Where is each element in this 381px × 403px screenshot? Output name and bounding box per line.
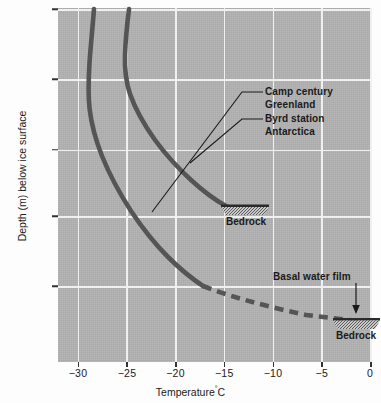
plot-area: Camp century Greenland Byrd station Anta… xyxy=(58,8,370,362)
annotation-byrd-station-line2: Antarctica xyxy=(265,126,325,139)
x-tick-label--20: −20 xyxy=(166,367,185,379)
x-axis-title-unit: C xyxy=(218,386,226,398)
y-tick-mark-2000 xyxy=(52,285,58,287)
curves-layer xyxy=(58,8,370,362)
x-tick-label--10: −10 xyxy=(264,367,283,379)
annotation-basal-water-film: Basal water film xyxy=(273,271,351,284)
x-tick-label--5: −5 xyxy=(316,367,329,379)
bedrock-label-1: Bedrock xyxy=(226,216,266,227)
x-axis-title: Temperature°C xyxy=(0,385,381,398)
annotation-camp-century-line1: Camp century xyxy=(265,86,333,99)
annotation-camp-century: Camp century Greenland xyxy=(265,86,333,111)
annotation-camp-century-line2: Greenland xyxy=(265,99,333,112)
annotation-byrd-station-line1: Byrd station xyxy=(265,113,325,126)
gridline-x-0 xyxy=(370,8,372,362)
annotation-byrd-station: Byrd station Antarctica xyxy=(265,113,325,138)
curve-camp-century-dashed-basal-water-film xyxy=(203,286,358,321)
bedrock-label-2: Bedrock xyxy=(336,330,376,341)
leader-line-byrd-station xyxy=(190,119,263,163)
x-tick-label--15: −15 xyxy=(215,367,234,379)
x-tick-label--25: −25 xyxy=(118,367,137,379)
curve-byrd-station xyxy=(125,9,245,213)
curve-camp-century-solid xyxy=(89,9,203,286)
x-tick-label--30: −30 xyxy=(69,367,88,379)
temperature-depth-ice-profile-chart: Camp century Greenland Byrd station Anta… xyxy=(0,0,381,403)
y-tick-mark-500 xyxy=(52,79,58,81)
y-tick-mark-1000 xyxy=(52,149,58,151)
y-axis-title: Depth (m) below ice surface xyxy=(16,76,28,276)
y-tick-mark-0 xyxy=(52,8,58,10)
x-axis-title-text: Temperature xyxy=(156,386,215,398)
leader-arrow-basal-water-film xyxy=(352,283,360,314)
y-tick-mark-1500 xyxy=(52,216,58,218)
bedrock-marker-2 xyxy=(333,318,380,329)
bedrock-marker-1 xyxy=(221,205,269,216)
x-tick-label-0: 0 xyxy=(367,367,373,379)
